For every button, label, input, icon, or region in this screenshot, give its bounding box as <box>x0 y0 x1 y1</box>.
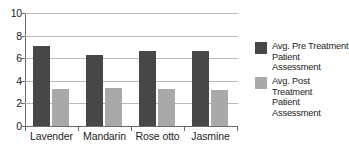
bar-group-jasmine <box>184 0 237 149</box>
legend-label-post: Avg. Post Treatment Patient Assessment <box>272 76 349 118</box>
x-tick-label-lavender: Lavender <box>25 131 78 142</box>
y-tick-label-4: 4 <box>2 76 22 86</box>
bar-pre-jasmine <box>192 51 209 126</box>
bar-chart: 10 8 6 4 2 0 <box>0 0 349 149</box>
x-tick-label-mandarin: Mandarin <box>78 131 131 142</box>
legend-item-pre-treatment: Avg. Pre Treatment Patient Assessment <box>255 41 349 73</box>
bar-post-rose-otto <box>158 89 175 126</box>
y-tick-label-10: 10 <box>2 8 22 18</box>
legend-swatch-icon-post <box>255 77 267 89</box>
bar-pre-rose-otto <box>139 51 156 126</box>
y-axis: 10 8 6 4 2 0 <box>0 0 22 149</box>
plot-area: 10 8 6 4 2 0 <box>0 0 245 149</box>
bar-group-mandarin <box>78 0 131 149</box>
bar-post-jasmine <box>211 90 228 126</box>
bar-pre-mandarin <box>86 55 103 126</box>
x-axis-separator <box>237 126 238 131</box>
bars-layer: Lavender Mandarin Rose otto Jasmine <box>25 0 238 149</box>
bar-group-lavender <box>25 0 78 149</box>
x-tick-label-rose-otto: Rose otto <box>131 131 184 142</box>
bar-post-mandarin <box>105 88 122 126</box>
bar-post-lavender <box>52 89 69 126</box>
legend-item-post-treatment: Avg. Post Treatment Patient Assessment <box>255 76 349 118</box>
bar-group-rose-otto <box>131 0 184 149</box>
y-tick-label-8: 8 <box>2 31 22 41</box>
legend-label-pre: Avg. Pre Treatment Patient Assessment <box>272 41 349 73</box>
legend-swatch-icon-pre <box>255 42 267 54</box>
y-tick-label-6: 6 <box>2 53 22 63</box>
y-tick-label-2: 2 <box>2 98 22 108</box>
y-tick-label-0: 0 <box>2 121 22 131</box>
x-tick-label-jasmine: Jasmine <box>184 131 237 142</box>
bar-pre-lavender <box>33 46 50 126</box>
chart-legend: Avg. Pre Treatment Patient Assessment Av… <box>255 0 349 149</box>
